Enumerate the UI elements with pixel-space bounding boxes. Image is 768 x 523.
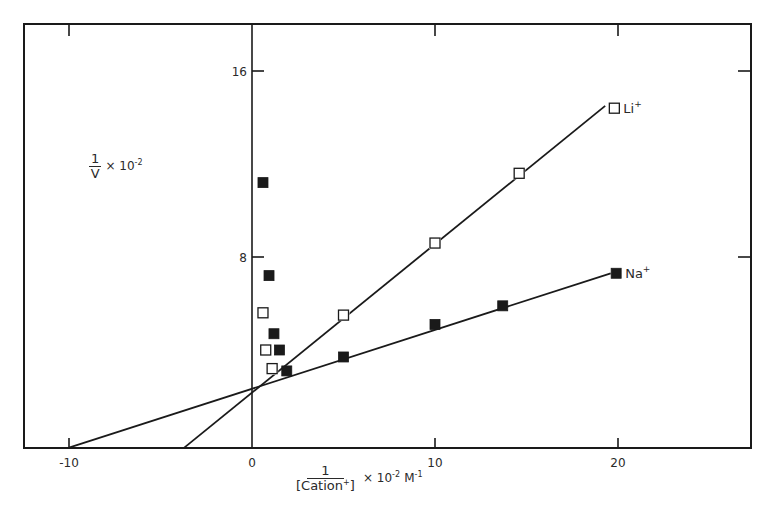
x-tick-label: 0 [248, 456, 256, 470]
x-label-denominator-text: [Cation [296, 478, 343, 493]
open-square-marker [430, 238, 440, 248]
y-label-fraction: 1 V [89, 152, 101, 181]
x-label-numerator: 1 [307, 464, 343, 479]
x-label-suffix: × 10 [363, 471, 392, 485]
open-square-marker [261, 345, 271, 355]
filled-square-marker [258, 178, 268, 188]
lineweaver-burk-plot: -1001020816 Li+Na+ [0, 0, 768, 523]
filled-square-marker [611, 268, 621, 278]
y-tick-label: 16 [232, 65, 247, 79]
open-square-marker [267, 364, 277, 374]
x-label-unit: M [404, 471, 414, 485]
y-label-suffix: × 10 [105, 159, 134, 173]
x-label-unit-exp: -1 [415, 470, 423, 479]
x-label-fraction: 1 [Cation+] [296, 464, 355, 493]
series-label-li: Li+ [623, 99, 641, 116]
plot-frame [24, 24, 751, 448]
y-tick-label: 8 [239, 251, 247, 265]
filled-square-marker [264, 271, 274, 281]
filled-square-marker [339, 352, 349, 362]
x-tick-label: 10 [427, 456, 442, 470]
x-label-suffix-exp: -2 [392, 470, 400, 479]
fit-line-li [184, 106, 605, 448]
open-square-marker [258, 308, 268, 318]
y-label-numerator: 1 [89, 152, 101, 167]
x-label-denominator-close: ] [350, 478, 355, 493]
axis-ticks: -1001020816 [59, 24, 751, 470]
filled-square-marker [430, 319, 440, 329]
y-label-denominator: V [91, 167, 100, 181]
open-square-marker [609, 103, 619, 113]
open-square-marker [514, 168, 524, 178]
x-label-denominator: [Cation+] [296, 479, 355, 494]
filled-square-marker [498, 301, 508, 311]
x-tick-label: 20 [610, 456, 625, 470]
y-axis-label: 1 V × 10-2 [89, 152, 143, 181]
filled-square-marker [269, 329, 279, 339]
x-label-denominator-sup: + [343, 478, 350, 487]
filled-square-marker [274, 345, 284, 355]
series-labels: Li+Na+ [623, 99, 650, 281]
x-tick-label: -10 [59, 456, 79, 470]
filled-square-marker [282, 366, 292, 376]
open-square-marker [339, 310, 349, 320]
y-label-exponent: -2 [135, 158, 143, 167]
fit-lines [69, 106, 611, 448]
series-label-na: Na+ [625, 264, 650, 281]
x-axis-label: 1 [Cation+] × 10-2 M-1 [296, 464, 423, 493]
data-markers [257, 102, 621, 376]
